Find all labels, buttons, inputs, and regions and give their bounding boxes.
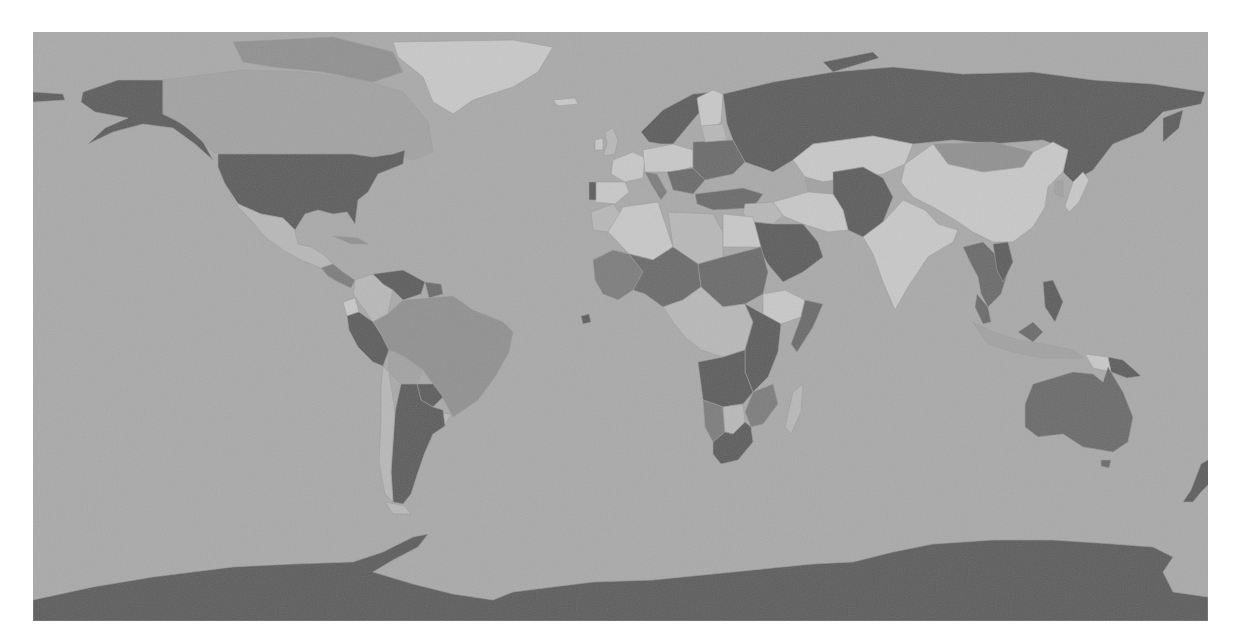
map-canvas: Alaska (US)Aleutian IslandsCanadaCanadia…	[33, 32, 1208, 621]
country-korea[interactable]: Korea	[1055, 180, 1063, 197]
world-map: Alaska (US)Aleutian IslandsCanadaCanadia…	[33, 32, 1208, 621]
country-portugal[interactable]: Portugal	[589, 182, 596, 200]
country-germany-poland[interactable]: Central Europe	[643, 144, 693, 172]
country-baltics[interactable]: Baltic States	[701, 124, 727, 142]
country-senegal-dot[interactable]: Senegal	[581, 314, 591, 324]
country-ireland[interactable]: Ireland	[595, 138, 603, 150]
